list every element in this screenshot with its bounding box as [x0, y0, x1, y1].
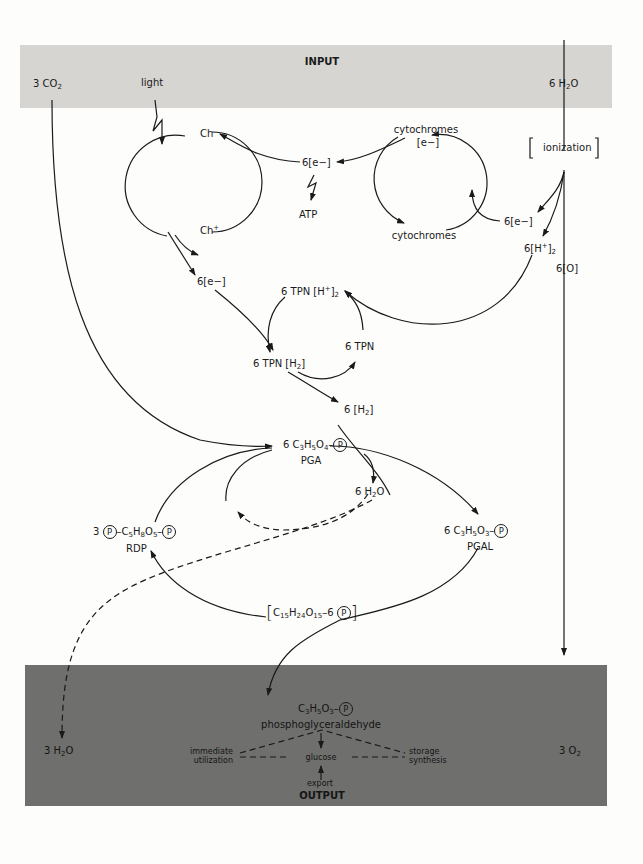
atp-bolt-icon	[308, 175, 316, 200]
protons-right: 6[H+]2	[524, 240, 556, 258]
electrons-right: 6[e−]	[504, 216, 533, 228]
cytochromes-top: cytochromes	[394, 124, 458, 136]
phosphate-icon: P	[494, 524, 508, 538]
rdp-name: RDP	[126, 543, 147, 555]
input-water: 6 H2O	[549, 78, 578, 93]
input-title: INPUT	[305, 56, 339, 68]
input-light: light	[141, 77, 163, 89]
phosphate-icon: P	[103, 525, 117, 539]
output-oxygen: 3 O2	[559, 745, 581, 760]
chlorophyll-plus-label: Ch+	[200, 222, 219, 237]
chlorophyll-label: Ch	[200, 128, 213, 140]
use-export: export	[307, 779, 333, 788]
cytochromes-bottom: cytochromes	[392, 230, 456, 242]
pga-name: PGA	[301, 455, 322, 467]
hydrogen-label: 6 [H2]	[344, 404, 373, 419]
electrons-left: 6[e−]	[197, 276, 226, 288]
tpn-h2: 6 TPN [H2]	[253, 358, 305, 373]
phosphate-icon: P	[337, 606, 351, 620]
cytochromes-electrons: [e−]	[417, 137, 439, 149]
product-name: phosphoglyceraldehyde	[261, 719, 381, 731]
rdp-formula: 3 P–C5H8O5–P	[93, 525, 176, 541]
phosphate-icon: P	[162, 525, 176, 539]
ionization-label: ionization	[543, 142, 592, 154]
phosphate-icon: P	[333, 438, 347, 452]
oxygen-atoms: 6[O]	[556, 263, 578, 275]
tpn-label: 6 TPN	[345, 341, 374, 353]
pga-formula: 6 C3H5O4–P	[283, 438, 347, 454]
product-formula: C3H5O3–P	[298, 702, 353, 718]
tpn-h-plus: 6 TPN [H+]2	[281, 283, 339, 301]
phosphate-icon: P	[339, 702, 353, 716]
use-immediate: immediateutilization	[190, 747, 233, 765]
input-co2: 3 CO2	[33, 78, 62, 93]
electrons-center: 6[e−]	[302, 157, 331, 169]
use-glucose: glucose	[306, 753, 337, 762]
output-title: OUTPUT	[299, 790, 345, 802]
pgal-name: PGAL	[467, 541, 493, 553]
co2-to-pga-arrow	[52, 100, 272, 446]
electrons-to-ch-arrow	[220, 134, 300, 162]
pgal-formula: 6 C3H5O3–P	[444, 524, 508, 540]
pathway-arrows	[0, 0, 643, 864]
water-mid: 6 H2O	[355, 486, 384, 501]
use-storage: storagesynthesis	[409, 747, 447, 765]
hexose-phosphate: [C15H24O15–6 P]	[266, 606, 358, 622]
output-water: 3 H2O	[44, 745, 73, 760]
atp-label: ATP	[299, 209, 317, 221]
